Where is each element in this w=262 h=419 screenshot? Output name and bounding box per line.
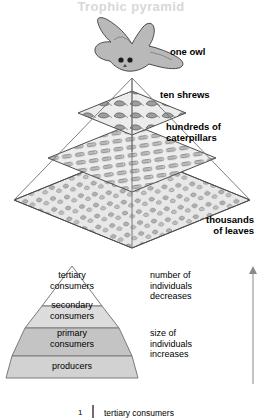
footer-label: tertiary consumers [104, 408, 174, 418]
annotation-number-of-individuals: number of individuals decreases [150, 270, 192, 302]
callout-hundreds-of-caterpillars: hundreds of caterpillars [166, 121, 221, 143]
tier-label-tertiary: tertiary consumers [4, 270, 140, 291]
callout-ten-shrews: ten shrews [160, 89, 210, 100]
tier-label-producers: producers [4, 361, 140, 372]
footer-cutoff-row: 1 tertiary consumers [0, 404, 262, 419]
individuals-axis-group: number of individuals decreases size of … [150, 262, 262, 387]
trophic-tier-labels: tertiary consumers secondary consumers p… [4, 262, 140, 382]
trophic-pyramid-2d: tertiary consumers secondary consumers p… [4, 262, 140, 382]
figure-root: Trophic pyramid [0, 0, 262, 419]
tier-label-primary: primary consumers [4, 328, 140, 349]
pyramid-callout-labels: one owl ten shrews hundreds of caterpill… [0, 0, 262, 258]
tier-label-secondary: secondary consumers [4, 300, 140, 321]
footer-tick-icon [88, 404, 98, 418]
callout-thousands-of-leaves: thousands of leaves [178, 214, 254, 236]
axis-arrow-icon [244, 262, 258, 387]
callout-one-owl: one owl [170, 46, 205, 57]
footer-number: 1 [78, 408, 82, 417]
annotation-size-of-individuals: size of individuals increases [150, 328, 192, 360]
